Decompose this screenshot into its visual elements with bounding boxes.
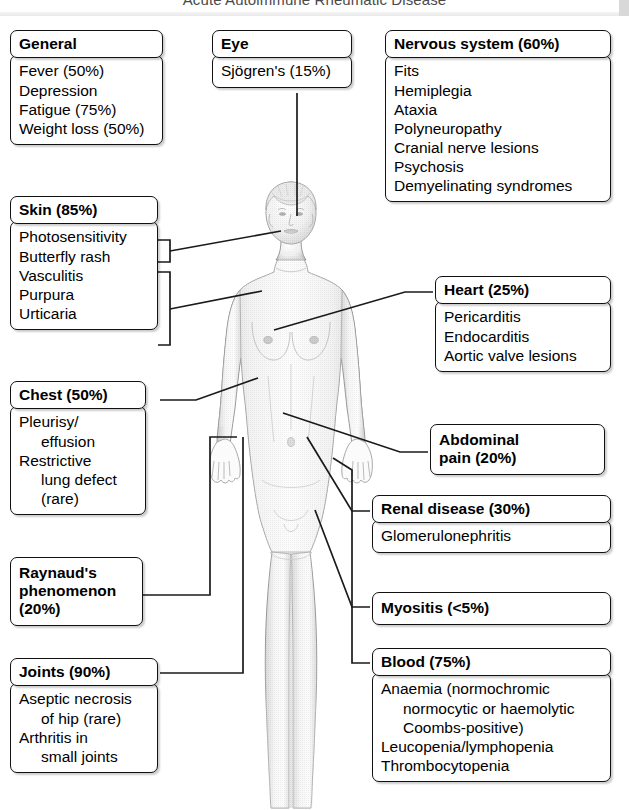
box-heart: Heart (25%) Pericarditis Endocarditis Ao… bbox=[435, 276, 611, 372]
box-skin-body: Photosensitivity Butterfly rash Vasculit… bbox=[10, 221, 158, 330]
list-item: Arthritis in bbox=[19, 728, 150, 747]
list-item: Anaemia (normochromic bbox=[381, 679, 603, 698]
list-item: Weight loss (50%) bbox=[19, 119, 155, 138]
diagram-canvas: Acute Autoimmune Rheumatic Disease bbox=[0, 0, 629, 810]
list-item: Cranial nerve lesions bbox=[394, 138, 603, 157]
box-abdominal-pain-title: Abdominal pain (20%) bbox=[430, 424, 605, 475]
box-joints-title: Joints (90%) bbox=[10, 658, 158, 686]
list-item: Aseptic necrosis bbox=[19, 689, 150, 708]
box-skin: Skin (85%) Photosensitivity Butterfly ra… bbox=[10, 196, 158, 330]
list-item: Restrictive bbox=[19, 451, 138, 470]
list-item: Depression bbox=[19, 81, 155, 100]
box-nervous-system: Nervous system (60%) Fits Hemiplegia Ata… bbox=[385, 30, 611, 202]
list-item: small joints bbox=[19, 747, 150, 766]
list-item: Leucopenia/lymphopenia bbox=[381, 737, 603, 756]
box-blood-body: Anaemia (normochromic normocytic or haem… bbox=[372, 673, 611, 782]
title-line: phenomenon bbox=[19, 582, 134, 600]
box-eye-title: Eye bbox=[212, 30, 352, 58]
box-renal-disease-title: Renal disease (30%) bbox=[372, 495, 611, 523]
box-heart-title: Heart (25%) bbox=[435, 276, 611, 304]
title-line: Myositis (<5%) bbox=[381, 599, 602, 617]
box-renal-disease-body: Glomerulonephritis bbox=[372, 520, 611, 552]
title-line: Abdominal bbox=[439, 431, 596, 449]
box-joints: Joints (90%) Aseptic necrosis of hip (ra… bbox=[10, 658, 158, 773]
list-item: Endocarditis bbox=[444, 327, 603, 346]
list-item: Psychosis bbox=[394, 157, 603, 176]
list-item: Glomerulonephritis bbox=[381, 526, 603, 545]
list-item: Demyelinating syndromes bbox=[394, 176, 603, 195]
box-eye: Eye Sjögren's (15%) bbox=[212, 30, 352, 88]
list-item: Fever (50%) bbox=[19, 61, 155, 80]
list-item: Thrombocytopenia bbox=[381, 756, 603, 775]
list-item: of hip (rare) bbox=[19, 709, 150, 728]
title-line: (20%) bbox=[19, 600, 134, 618]
box-abdominal-pain: Abdominal pain (20%) bbox=[430, 424, 605, 475]
list-item: Butterfly rash bbox=[19, 247, 150, 266]
box-blood: Blood (75%) Anaemia (normochromic normoc… bbox=[372, 648, 611, 782]
list-item: Pleurisy/ bbox=[19, 412, 138, 431]
list-item: effusion bbox=[19, 432, 138, 451]
list-item: Hemiplegia bbox=[394, 81, 603, 100]
list-item: Urticaria bbox=[19, 304, 150, 323]
box-chest: Chest (50%) Pleurisy/ effusion Restricti… bbox=[10, 381, 146, 515]
box-renal-disease: Renal disease (30%) Glomerulonephritis bbox=[372, 495, 611, 553]
box-blood-title: Blood (75%) bbox=[372, 648, 611, 676]
list-item: (rare) bbox=[19, 489, 138, 508]
list-item: lung defect bbox=[19, 470, 138, 489]
list-item: Pericarditis bbox=[444, 307, 603, 326]
list-item: Vasculitis bbox=[19, 266, 150, 285]
list-item: Sjögren's (15%) bbox=[221, 61, 344, 80]
box-general: General Fever (50%) Depression Fatigue (… bbox=[10, 30, 163, 145]
header-divider bbox=[0, 12, 629, 16]
list-item: Purpura bbox=[19, 285, 150, 304]
box-myositis-title: Myositis (<5%) bbox=[372, 592, 611, 625]
box-general-body: Fever (50%) Depression Fatigue (75%) Wei… bbox=[10, 55, 163, 145]
title-line: Raynaud's bbox=[19, 564, 134, 582]
list-item: normocytic or haemolytic bbox=[381, 699, 603, 718]
box-general-title: General bbox=[10, 30, 163, 58]
box-chest-title: Chest (50%) bbox=[10, 381, 146, 409]
list-item: Ataxia bbox=[394, 100, 603, 119]
box-nervous-system-body: Fits Hemiplegia Ataxia Polyneuropathy Cr… bbox=[385, 55, 611, 202]
list-item: Aortic valve lesions bbox=[444, 346, 603, 365]
list-item: Coombs-positive) bbox=[381, 718, 603, 737]
list-item: Fits bbox=[394, 61, 603, 80]
box-heart-body: Pericarditis Endocarditis Aortic valve l… bbox=[435, 301, 611, 371]
title-line: pain (20%) bbox=[439, 449, 596, 467]
box-myositis: Myositis (<5%) bbox=[372, 592, 611, 625]
female-anatomical-figure bbox=[196, 180, 386, 810]
box-nervous-system-title: Nervous system (60%) bbox=[385, 30, 611, 58]
box-joints-body: Aseptic necrosis of hip (rare) Arthritis… bbox=[10, 683, 158, 773]
list-item: Polyneuropathy bbox=[394, 119, 603, 138]
list-item: Photosensitivity bbox=[19, 227, 150, 246]
box-chest-body: Pleurisy/ effusion Restrictive lung defe… bbox=[10, 406, 146, 515]
box-raynauds: Raynaud's phenomenon (20%) bbox=[10, 557, 143, 626]
box-raynauds-title: Raynaud's phenomenon (20%) bbox=[10, 557, 143, 626]
box-eye-body: Sjögren's (15%) bbox=[212, 55, 352, 87]
list-item: Fatigue (75%) bbox=[19, 100, 155, 119]
box-skin-title: Skin (85%) bbox=[10, 196, 158, 224]
page-title: Acute Autoimmune Rheumatic Disease bbox=[0, 0, 629, 11]
